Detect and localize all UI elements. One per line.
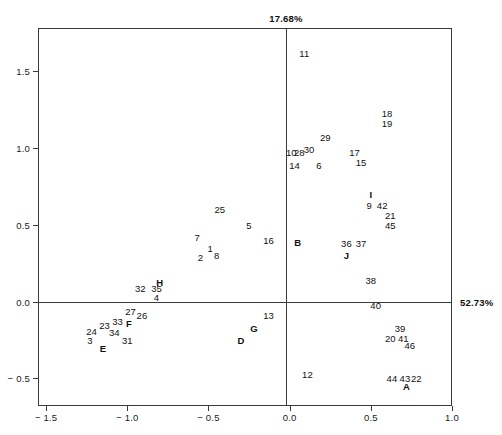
- observation-point-label: 42: [377, 199, 388, 210]
- observation-point-label: 44: [387, 373, 398, 384]
- x-tick-label: 0.5: [364, 412, 378, 423]
- y-tick-mark: [33, 302, 38, 303]
- observation-point-label: 12: [302, 368, 313, 379]
- observation-point-label: 19: [382, 118, 393, 129]
- observation-point-label: 37: [356, 238, 367, 249]
- observation-point-label: 4: [154, 291, 159, 302]
- observation-point-label: 3: [87, 334, 92, 345]
- scatter-plot-figure: 17.68% 52.73% − 1.5− 1.0− 0.50.00.51.01.…: [0, 0, 502, 435]
- observation-point-label: 45: [385, 219, 396, 230]
- observation-point-label: 33: [112, 316, 123, 327]
- observation-point-label: 1: [207, 242, 212, 253]
- y-zero-axis-line: [38, 302, 452, 303]
- horizontal-axis-variance-label: 52.73%: [460, 297, 493, 308]
- observation-point-label: 31: [122, 334, 133, 345]
- x-tick-mark: [290, 406, 291, 411]
- observation-point-label: 18: [382, 107, 393, 118]
- observation-point-label: 34: [109, 327, 120, 338]
- observation-point-label: 14: [289, 159, 300, 170]
- x-tick-mark: [452, 406, 453, 411]
- observation-point-label: 38: [365, 275, 376, 286]
- observation-point-label: 20: [385, 333, 396, 344]
- x-tick-label: 1.0: [445, 412, 459, 423]
- observation-point-label: 2: [198, 251, 203, 262]
- observation-point-label: 36: [341, 238, 352, 249]
- y-tick-mark: [33, 225, 38, 226]
- observation-point-label: 46: [404, 339, 415, 350]
- x-tick-mark: [208, 406, 209, 411]
- observation-point-label: 29: [320, 132, 331, 143]
- x-tick-mark: [46, 406, 47, 411]
- x-tick-mark: [127, 406, 128, 411]
- group-centroid-label: F: [126, 318, 132, 329]
- x-tick-label: 0.0: [283, 412, 297, 423]
- observation-point-label: 32: [135, 282, 146, 293]
- group-centroid-label: B: [294, 236, 301, 247]
- observation-point-label: 27: [125, 305, 136, 316]
- group-centroid-label: J: [344, 250, 349, 261]
- group-centroid-label: D: [237, 334, 244, 345]
- observation-point-label: 16: [263, 235, 274, 246]
- observation-point-label: 9: [366, 199, 371, 210]
- y-tick-mark: [33, 148, 38, 149]
- group-centroid-label: E: [100, 342, 106, 353]
- observation-point-label: 39: [395, 322, 406, 333]
- vertical-axis-variance-label: 17.68%: [269, 13, 302, 24]
- x-tick-mark: [371, 406, 372, 411]
- group-centroid-label: I: [369, 188, 372, 199]
- x-zero-axis-line: [286, 28, 287, 406]
- x-tick-label: − 1.0: [116, 412, 138, 423]
- y-tick-mark: [33, 71, 38, 72]
- y-tick-label: 1.5: [16, 66, 30, 77]
- observation-point-label: 30: [304, 144, 315, 155]
- observation-point-label: 15: [356, 156, 367, 167]
- y-tick-mark: [33, 378, 38, 379]
- y-tick-label: − 0.5: [8, 373, 30, 384]
- group-centroid-label: G: [250, 322, 258, 333]
- observation-point-label: 22: [411, 373, 422, 384]
- y-tick-label: 0.5: [16, 219, 30, 230]
- observation-point-label: 7: [194, 231, 199, 242]
- observation-point-label: 11: [299, 47, 309, 58]
- observation-point-label: 8: [214, 250, 219, 261]
- group-centroid-label: A: [403, 381, 410, 392]
- y-tick-label: 1.0: [16, 142, 30, 153]
- observation-point-label: 26: [137, 310, 148, 321]
- x-tick-label: − 0.5: [197, 412, 219, 423]
- observation-point-label: 5: [246, 219, 251, 230]
- observation-point-label: 6: [316, 159, 321, 170]
- observation-point-label: 13: [263, 310, 274, 321]
- x-tick-label: − 1.5: [35, 412, 57, 423]
- observation-point-label: 40: [370, 299, 381, 310]
- y-tick-label: 0.0: [16, 296, 30, 307]
- observation-point-label: 25: [214, 204, 225, 215]
